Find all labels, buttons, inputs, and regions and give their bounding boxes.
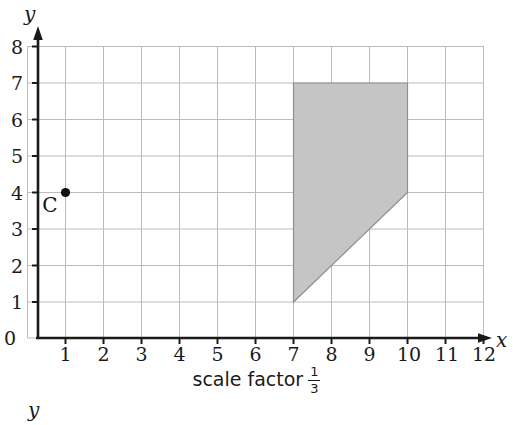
x-tick-label-2: 2 bbox=[97, 343, 109, 365]
fraction-numerator: 1 bbox=[308, 365, 320, 379]
fraction-denominator: 3 bbox=[308, 382, 320, 396]
shaded-quadrilateral bbox=[294, 83, 408, 302]
y-tick-label-1: 1 bbox=[11, 291, 23, 313]
x-tick-label-11: 11 bbox=[435, 343, 459, 365]
caption-fraction: 13 bbox=[308, 365, 320, 395]
figure-caption: scale factor13 bbox=[0, 364, 513, 394]
origin-tick-label: 0 bbox=[4, 327, 16, 349]
y-tick-label-4: 4 bbox=[11, 182, 23, 204]
y-tick-label-2: 2 bbox=[11, 255, 23, 277]
y-tick-label-5: 5 bbox=[11, 145, 23, 167]
x-tick-label-8: 8 bbox=[325, 343, 337, 365]
y-axis bbox=[33, 26, 43, 338]
x-tick-label-5: 5 bbox=[211, 343, 223, 365]
next-figure-y-letter: y bbox=[28, 398, 39, 422]
caption-text: scale factor bbox=[193, 370, 304, 389]
y-tick-label-3: 3 bbox=[11, 218, 23, 240]
y-axis-letter: y bbox=[23, 2, 36, 26]
point-c-label: C bbox=[42, 193, 57, 217]
x-tick-label-9: 9 bbox=[363, 343, 375, 365]
x-tick-label-7: 7 bbox=[287, 343, 299, 365]
coordinate-grid-figure: y x 0 8 7 6 5 4 3 2 1 1 2 3 4 5 6 7 8 9 … bbox=[0, 0, 513, 425]
x-tick-label-4: 4 bbox=[173, 343, 185, 365]
plot-svg: y x 0 8 7 6 5 4 3 2 1 1 2 3 4 5 6 7 8 9 … bbox=[0, 0, 513, 425]
point-c-marker bbox=[61, 188, 70, 197]
x-tick-label-6: 6 bbox=[249, 343, 261, 365]
x-tick-label-1: 1 bbox=[59, 343, 71, 365]
y-tick-label-6: 6 bbox=[11, 109, 23, 131]
x-tick-label-10: 10 bbox=[397, 343, 421, 365]
y-tick-label-7: 7 bbox=[11, 72, 23, 94]
x-axis-letter: x bbox=[496, 328, 507, 352]
y-tick-label-8: 8 bbox=[11, 36, 23, 58]
x-tick-label-12: 12 bbox=[472, 343, 496, 365]
x-tick-label-3: 3 bbox=[135, 343, 147, 365]
